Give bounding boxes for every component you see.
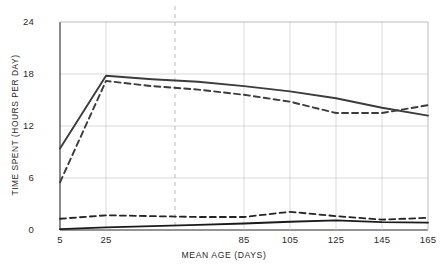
x-tick-label: 125	[328, 234, 344, 245]
x-tick-label: 5	[57, 234, 62, 245]
x-tick-label: 85	[239, 234, 250, 245]
line-chart: TIME SPENT (HOURS PER DAY) 06121824 5258…	[0, 0, 448, 278]
x-tick-label: 25	[101, 234, 112, 245]
x-tick-label: 105	[282, 234, 298, 245]
x-axis-label: MEAN AGE (DAYS)	[0, 250, 448, 260]
x-tick-label: 165	[420, 234, 436, 245]
x-tick-label: 145	[374, 234, 390, 245]
